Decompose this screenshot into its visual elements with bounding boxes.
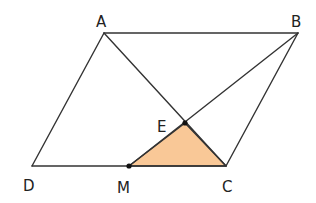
point-e-icon [182,120,187,125]
label-m: M [117,179,130,197]
label-e: E [157,118,166,136]
label-d: D [23,177,35,195]
label-c: C [222,178,232,196]
label-a: A [96,13,107,31]
segment-da [32,33,104,166]
geometry-diagram: A B D M C E [0,0,316,203]
segment-bc [226,33,298,166]
segment-bm [129,33,298,166]
shaded-triangle-emc [129,123,226,166]
label-b: B [291,13,301,31]
point-m-icon [126,163,131,168]
